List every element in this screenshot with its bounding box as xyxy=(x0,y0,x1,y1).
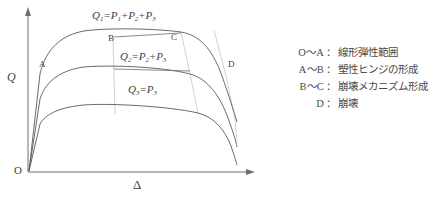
equation-q1-equals: = xyxy=(103,9,110,21)
legend-desc-bc: 崩壊メカニズム形成 xyxy=(338,78,428,93)
y-axis-label: Q xyxy=(7,71,16,83)
legend-colon-oa: ： xyxy=(324,44,338,59)
equation-q1-lhs: Q xyxy=(92,9,100,21)
figure-root: Q Δ O A B C D Q1=P1+P2+P3 Q2=P2+P3 Q3=P3… xyxy=(0,0,431,207)
y-axis-arrowhead xyxy=(25,7,31,16)
point-label-d: D xyxy=(228,60,235,69)
legend-desc-d: 崩壊 xyxy=(338,95,358,110)
point-label-a: A xyxy=(39,60,46,69)
legend-key-d: D xyxy=(288,98,324,109)
legend-row-oa: O～A：線形弾性範囲 xyxy=(288,44,430,61)
legend-colon-ab: ： xyxy=(324,61,338,76)
legend-key-bc: B～C xyxy=(288,78,324,93)
equation-q3: Q3=P3 xyxy=(128,84,157,97)
equation-q2-lhs: Q xyxy=(120,50,128,62)
x-axis-label: Δ xyxy=(133,178,141,191)
legend-row-d: D：崩壊 xyxy=(288,95,430,112)
legend-key-oa: O～A xyxy=(288,44,324,59)
point-label-c: C xyxy=(171,33,177,42)
link-line-b xyxy=(113,35,115,114)
equation-q1-term1: P xyxy=(128,9,135,21)
point-label-b: B xyxy=(108,34,114,43)
legend-key-ab: A～B xyxy=(288,61,324,76)
equation-q2: Q2=P2+P3 xyxy=(120,51,166,64)
legend-desc-oa: 線形弾性範囲 xyxy=(338,44,398,59)
legend-row-bc: B～C：崩壊メカニズム形成 xyxy=(288,78,430,95)
equation-q2-equals: = xyxy=(131,50,138,62)
x-axis-arrowhead xyxy=(246,169,255,175)
equation-q2-term1-sub: 3 xyxy=(163,56,167,64)
legend-row-ab: A～B：塑性ヒンジの形成 xyxy=(288,61,430,78)
equation-q3-term0-sub: 3 xyxy=(153,89,157,97)
equation-q3-lhs: Q xyxy=(128,83,136,95)
equation-q2-term1: P xyxy=(156,50,163,62)
legend: O～A：線形弾性範囲 A～B：塑性ヒンジの形成 B～C：崩壊メカニズム形成 D：… xyxy=(288,44,430,112)
legend-colon-bc: ： xyxy=(324,78,338,93)
plateau-segment-q2 xyxy=(114,69,190,71)
equation-q1-plus1: + xyxy=(138,9,145,21)
legend-desc-ab: 塑性ヒンジの形成 xyxy=(338,61,418,76)
curve-q3 xyxy=(29,104,237,171)
equation-q1: Q1=P1+P2+P3 xyxy=(92,10,156,23)
equation-q3-equals: = xyxy=(139,83,146,95)
legend-colon-d: ： xyxy=(324,95,338,110)
equation-q1-term2-sub: 3 xyxy=(152,15,156,23)
curve-q2 xyxy=(29,66,237,171)
origin-label: O xyxy=(14,165,22,176)
